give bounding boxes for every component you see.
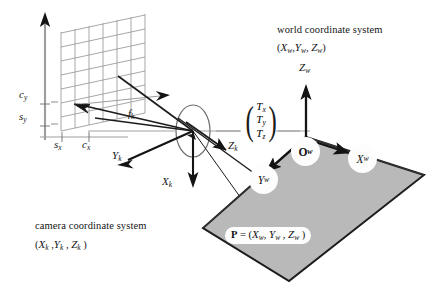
translation-row-y: Ty [256,114,265,127]
camera-z-axis-label: Zk [228,140,237,153]
image-plane-vertical-axis [40,12,50,140]
translation-vector: ( Tx Ty Tz ) [243,101,279,141]
scene-point-p-label: P = (Xw, Yw , Zw ) [225,227,311,244]
world-origin-badge: Ow [291,137,320,166]
focal-length-label: fk [128,108,134,121]
principal-point-cy-label: cy [19,89,27,102]
world-y-axis-badge: Yw [249,165,278,194]
image-plane-x-axis-arrow [82,91,170,104]
camera-y-axis-label: Yk [112,150,121,163]
camera-world-coordinate-diagram: world coordinate system (Xw,Yw, Zw) Zw c… [0,0,438,289]
camera-coordinate-system-caption: camera coordinate system [35,221,146,232]
camera-coordinate-tuple: (Xk ,Yk , Zk ) [35,239,87,252]
world-x-axis-badge: Xw [348,144,377,173]
matrix-close-paren: ) [268,105,276,136]
camera-axes [117,128,198,188]
scale-sy-label: sy [19,111,27,124]
scale-sx-label: sx [54,139,62,152]
world-z-axis-label: Zw [299,62,310,75]
matrix-open-paren: ( [246,105,254,136]
world-coordinate-tuple: (Xw,Yw, Zw) [277,42,326,55]
translation-row-z: Tz [256,128,265,141]
translation-row-x: Tx [256,101,265,114]
world-coordinate-system-caption: world coordinate system [277,25,383,36]
principal-point-cx-label: cx [82,139,90,152]
camera-x-axis-label: Xk [162,176,172,189]
